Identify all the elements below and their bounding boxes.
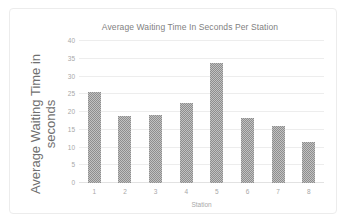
plot-area: 0510152025303540 12345678 [79, 41, 324, 183]
bar[interactable] [118, 116, 131, 183]
chart-container: Average Waiting Time In Seconds Per Stat… [9, 8, 337, 214]
y-axis-tick-label: 40 [68, 37, 75, 44]
y-axis-title-line-2: seconds [43, 44, 58, 204]
bar[interactable] [149, 115, 162, 183]
y-axis-tick-label: 5 [71, 161, 75, 168]
x-axis-tick-label: 4 [184, 188, 188, 195]
y-axis-title-line-1: Average Waiting Time in [28, 44, 43, 204]
bar[interactable] [180, 103, 193, 183]
bar[interactable] [88, 92, 101, 183]
y-axis-title: Average Waiting Time in seconds [28, 44, 58, 204]
bar-slot: 6 [232, 41, 263, 183]
y-axis-tick-label: 15 [68, 125, 75, 132]
chart-title: Average Waiting Time In Seconds Per Stat… [50, 22, 330, 32]
x-axis-tick-label: 3 [154, 188, 158, 195]
y-axis-tick-label: 10 [68, 143, 75, 150]
x-axis-tick-label: 2 [123, 188, 127, 195]
x-axis-tick-label: 8 [307, 188, 311, 195]
bar[interactable] [302, 142, 315, 183]
bar[interactable] [210, 63, 223, 183]
bar-slot: 4 [171, 41, 202, 183]
x-axis-tick-label: 7 [276, 188, 280, 195]
y-axis-tick-label: 35 [68, 54, 75, 61]
bar-series: 12345678 [79, 41, 324, 183]
bar-slot: 5 [202, 41, 233, 183]
bar-slot: 2 [110, 41, 141, 183]
y-axis-tick-label: 30 [68, 72, 75, 79]
x-axis-title: Station [79, 201, 324, 208]
y-axis-tick-label: 0 [71, 179, 75, 186]
bar-slot: 1 [79, 41, 110, 183]
x-axis-tick-label: 5 [215, 188, 219, 195]
bar[interactable] [241, 118, 254, 183]
y-axis-tick-label: 25 [68, 90, 75, 97]
y-axis-tick-label: 20 [68, 108, 75, 115]
bar-slot: 7 [263, 41, 294, 183]
bar-slot: 8 [293, 41, 324, 183]
bar[interactable] [272, 126, 285, 183]
x-axis-tick-label: 6 [246, 188, 250, 195]
x-axis-tick-label: 1 [93, 188, 97, 195]
bar-slot: 3 [140, 41, 171, 183]
